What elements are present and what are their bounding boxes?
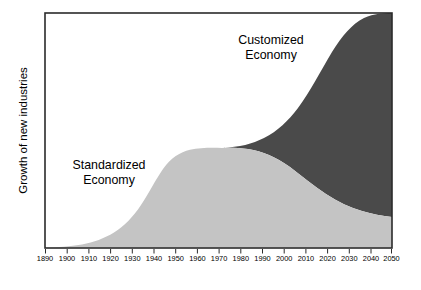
annotation-customized-economy: Customized Economy bbox=[213, 33, 329, 62]
annotation-standardized-line1: Standardized bbox=[72, 158, 145, 172]
annotation-customized-line1: Customized bbox=[238, 33, 303, 47]
plot-area bbox=[0, 0, 421, 290]
x-tick-label: 2050 bbox=[379, 254, 405, 263]
annotation-standardized-line2: Economy bbox=[83, 173, 135, 187]
x-axis-ticks bbox=[46, 249, 392, 254]
annotation-customized-line2: Economy bbox=[245, 48, 297, 62]
chart-figure: Growth of new industries bbox=[0, 0, 421, 290]
annotation-standardized-economy: Standardized Economy bbox=[48, 158, 170, 187]
